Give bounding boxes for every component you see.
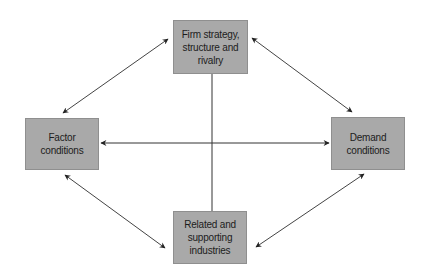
node-demand-conditions: Demand conditions xyxy=(331,117,405,170)
node-related-industries: Related and supporting industries xyxy=(173,211,247,264)
arrow-strategy-demand xyxy=(252,38,352,112)
node-firm-strategy: Firm strategy, structure and rivalry xyxy=(173,20,248,74)
arrow-factor-related xyxy=(65,175,165,248)
node-label: Related and supporting industries xyxy=(184,218,236,257)
arrow-factor-strategy xyxy=(63,39,168,113)
arrow-related-demand xyxy=(256,174,364,247)
node-label: Firm strategy, structure and rivalry xyxy=(182,28,240,67)
node-label: Factor conditions xyxy=(40,131,83,157)
node-factor-conditions: Factor conditions xyxy=(25,118,99,170)
node-label: Demand conditions xyxy=(346,131,389,157)
